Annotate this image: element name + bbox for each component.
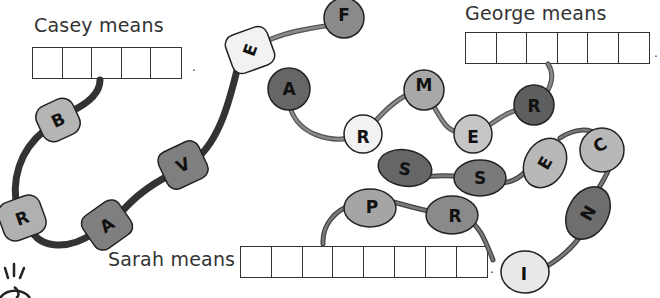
svg-text:S: S bbox=[474, 168, 486, 188]
bead-S-1: S bbox=[454, 160, 506, 196]
svg-text:R: R bbox=[527, 96, 540, 116]
bead-R-george-2: R bbox=[514, 85, 554, 125]
bead-R-george-1: R bbox=[344, 115, 382, 153]
bead-P: P bbox=[344, 189, 396, 227]
svg-text:A: A bbox=[282, 79, 296, 99]
svg-text:P: P bbox=[366, 197, 378, 217]
svg-text:R: R bbox=[448, 206, 461, 226]
bead-R-sarah: R bbox=[426, 196, 478, 234]
bead-F: F bbox=[324, 0, 364, 38]
bead-I: I bbox=[501, 251, 549, 293]
lightbulb-icon bbox=[0, 264, 30, 298]
bead-A-george: A bbox=[268, 68, 310, 110]
svg-text:R: R bbox=[356, 127, 369, 147]
bead-E-george: E bbox=[454, 115, 492, 153]
bead-strings-illustration: B R A V E F A R M E R P bbox=[0, 0, 660, 298]
svg-text:F: F bbox=[338, 5, 350, 25]
bead-S-2: S bbox=[375, 146, 434, 191]
bead-E-casey: E bbox=[222, 24, 277, 77]
svg-text:I: I bbox=[521, 264, 527, 284]
bead-M: M bbox=[404, 70, 444, 110]
bead-C: C bbox=[580, 128, 624, 172]
svg-text:M: M bbox=[416, 75, 433, 95]
bead-E-sarah: E bbox=[515, 130, 576, 195]
bead-N: N bbox=[557, 179, 620, 247]
svg-text:E: E bbox=[467, 127, 479, 147]
bead-V: V bbox=[155, 138, 212, 193]
bead-R-casey: R bbox=[0, 192, 50, 245]
